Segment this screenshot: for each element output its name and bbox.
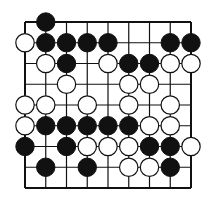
white-stone[interactable] bbox=[161, 54, 179, 72]
black-stone[interactable] bbox=[161, 137, 179, 155]
white-stone[interactable] bbox=[37, 96, 55, 114]
black-stone[interactable] bbox=[140, 54, 158, 72]
black-stone[interactable] bbox=[78, 158, 96, 176]
white-stone[interactable] bbox=[140, 75, 158, 93]
white-stone[interactable] bbox=[182, 137, 200, 155]
black-stone[interactable] bbox=[161, 34, 179, 52]
black-stone[interactable] bbox=[37, 13, 55, 31]
white-stone[interactable] bbox=[120, 158, 138, 176]
black-stone[interactable] bbox=[37, 34, 55, 52]
white-stone[interactable] bbox=[16, 34, 34, 52]
black-stone[interactable] bbox=[120, 117, 138, 135]
black-stone[interactable] bbox=[57, 117, 75, 135]
black-stone[interactable] bbox=[99, 117, 117, 135]
black-stone[interactable] bbox=[99, 34, 117, 52]
white-stone[interactable] bbox=[161, 96, 179, 114]
white-stone[interactable] bbox=[78, 137, 96, 155]
go-board[interactable] bbox=[0, 0, 211, 209]
white-stone[interactable] bbox=[99, 54, 117, 72]
black-stone[interactable] bbox=[78, 117, 96, 135]
black-stone[interactable] bbox=[37, 158, 55, 176]
black-stone[interactable] bbox=[16, 137, 34, 155]
black-stone[interactable] bbox=[140, 137, 158, 155]
go-board-canvas[interactable] bbox=[0, 0, 211, 209]
black-stone[interactable] bbox=[57, 34, 75, 52]
white-stone[interactable] bbox=[120, 137, 138, 155]
black-stone[interactable] bbox=[57, 137, 75, 155]
white-stone[interactable] bbox=[140, 158, 158, 176]
white-stone[interactable] bbox=[99, 137, 117, 155]
white-stone[interactable] bbox=[16, 117, 34, 135]
white-stone[interactable] bbox=[120, 75, 138, 93]
white-stone[interactable] bbox=[161, 117, 179, 135]
black-stone[interactable] bbox=[57, 54, 75, 72]
white-stone[interactable] bbox=[182, 54, 200, 72]
black-stone[interactable] bbox=[182, 34, 200, 52]
white-stone[interactable] bbox=[120, 96, 138, 114]
black-stone[interactable] bbox=[78, 34, 96, 52]
white-stone[interactable] bbox=[57, 75, 75, 93]
black-stone[interactable] bbox=[120, 54, 138, 72]
white-stone[interactable] bbox=[16, 96, 34, 114]
white-stone[interactable] bbox=[37, 54, 55, 72]
white-stone[interactable] bbox=[140, 117, 158, 135]
black-stone[interactable] bbox=[37, 117, 55, 135]
white-stone[interactable] bbox=[78, 96, 96, 114]
black-stone[interactable] bbox=[161, 158, 179, 176]
